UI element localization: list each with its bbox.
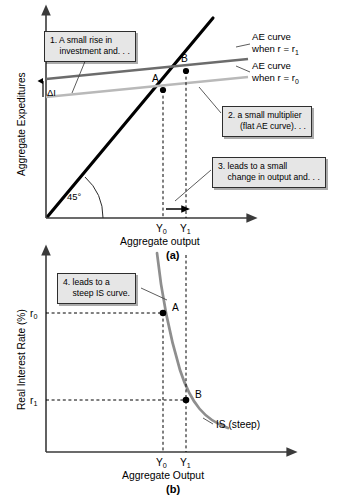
panel-a-x-axis-title: Aggregate output <box>120 236 200 247</box>
panel-a-point-b-label: B <box>181 53 188 64</box>
is-curve-label: IS (steep) <box>216 418 260 431</box>
panel-b-point-b-marker <box>183 397 190 404</box>
panel-b-tick-y0: Y0 <box>156 457 167 470</box>
panel-a-y-axis-title: Aggregate Expeditures <box>16 72 27 176</box>
panel-b-point-a-marker <box>160 310 167 317</box>
forty-five-degree-arc <box>85 177 103 218</box>
figure-container: Y0 Y1 A B 45° ΔI Y0 Y1 r0 r1 A B AE curv… <box>0 0 352 502</box>
callout-3-leader <box>175 170 211 201</box>
ae-r1-label-leader <box>236 44 250 47</box>
callout-box-4: 4. leads to a steep IS curve. <box>57 273 136 304</box>
is-curve <box>157 253 228 428</box>
panel-a-tick-y0: Y0 <box>156 223 167 236</box>
ae-curve-r0 <box>46 77 248 97</box>
callout-2-leader <box>199 87 221 113</box>
ae-curve-r1-label: AE curve when r = r1 <box>252 31 299 58</box>
panel-a-point-b-marker <box>183 68 189 74</box>
callout-box-1: 1. A small rise in investment and. . . <box>44 31 136 62</box>
ae-r0-label-leader <box>236 66 250 72</box>
panel-a-point-a-label: A <box>152 73 159 84</box>
forty-five-degree-label: 45° <box>67 191 81 202</box>
panel-a-tick-y1: Y1 <box>180 223 191 236</box>
panel-b-point-b-label: B <box>195 389 202 400</box>
callout-box-3: 3. leads to a small change in output and… <box>212 157 326 188</box>
panel-a-label: (a) <box>166 249 179 261</box>
panel-b-y-axis-title: Real Interest Rate (%) <box>16 309 27 410</box>
panel-b-label: (b) <box>166 483 180 495</box>
panel-b-tick-r0: r0 <box>30 308 37 321</box>
panel-b-point-a-label: A <box>172 302 179 313</box>
panel-a-point-a-marker <box>160 87 166 93</box>
panel-b-tick-y1: Y1 <box>180 457 191 470</box>
ae-curve-r0-label: AE curve when r = r0 <box>252 60 299 87</box>
panel-b-x-axis-title: Aggregate Output <box>122 470 204 481</box>
delta-i-label: ΔI <box>47 87 56 98</box>
callout-box-2: 2. a small multiplier (flat AE curve). .… <box>222 106 312 137</box>
ae-curve-r1 <box>46 59 248 79</box>
panel-b-tick-r1: r1 <box>30 395 37 408</box>
